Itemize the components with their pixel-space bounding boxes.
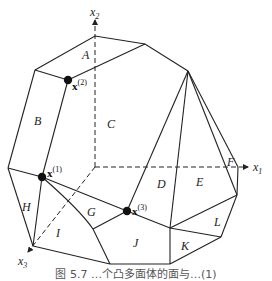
region-F: F (226, 155, 235, 169)
x1-axis-label: x1 (252, 160, 262, 176)
x2-axis-label: x2 (89, 5, 99, 21)
point-x3 (123, 207, 131, 215)
region-C: C (107, 117, 116, 131)
region-G: G (87, 205, 96, 219)
polyhedron-edges (8, 36, 238, 264)
point-x2 (64, 76, 72, 84)
region-E: E (195, 175, 204, 189)
region-I: I (55, 226, 61, 240)
region-K: K (180, 239, 190, 253)
region-A: A (81, 48, 90, 62)
region-B: B (34, 114, 42, 128)
region-L: L (213, 215, 221, 229)
point-x3-label: x(3) (132, 203, 147, 217)
region-J: J (133, 236, 139, 250)
point-x1-label: x(1) (47, 165, 62, 179)
figure-caption: 图 5.7 …个凸多面体的面与…(1) (0, 265, 272, 281)
region-D: D (156, 177, 166, 191)
region-H: H (21, 200, 32, 214)
point-x2-label: x(2) (72, 78, 87, 92)
point-x1 (38, 173, 46, 181)
